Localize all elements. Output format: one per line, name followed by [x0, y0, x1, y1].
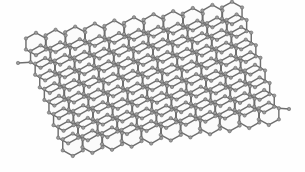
carbon-atom [81, 146, 84, 149]
carbon-atom [220, 51, 223, 54]
carbon-atom [101, 134, 104, 137]
carbon-atom [126, 90, 129, 93]
carbon-atom [159, 133, 162, 136]
carbon-atom [190, 60, 193, 63]
carbon-atom [258, 110, 261, 113]
carbon-atom [106, 135, 109, 138]
carbon-atom [142, 41, 145, 44]
carbon-atom [117, 76, 120, 79]
carbon-atom [171, 40, 174, 43]
carbon-atom [74, 25, 77, 28]
carbon-atom [120, 142, 123, 145]
carbon-atom [97, 88, 100, 91]
carbon-atom [248, 81, 251, 84]
carbon-atom [145, 129, 148, 132]
carbon-atom [131, 91, 134, 94]
carbon-atom [141, 86, 144, 89]
carbon-atom [180, 80, 183, 83]
carbon-atom [184, 78, 187, 81]
carbon-atom [34, 53, 37, 56]
carbon-atom [106, 90, 109, 93]
carbon-atom [125, 132, 128, 135]
carbon-atom [229, 76, 232, 79]
carbon-atom [110, 126, 113, 129]
carbon-atom [54, 50, 57, 53]
carbon-atom [210, 48, 213, 51]
carbon-atom [160, 136, 163, 139]
carbon-atom [176, 22, 179, 25]
carbon-atom [142, 29, 145, 32]
carbon-atom [184, 89, 187, 92]
carbon-atom [111, 103, 114, 106]
carbon-atom [229, 31, 232, 34]
carbon-atom [93, 44, 96, 47]
carbon-atom [135, 116, 138, 119]
carbon-atom [146, 42, 149, 45]
carbon-atom [69, 46, 72, 49]
carbon-atom [96, 133, 99, 136]
carbon-atom [100, 131, 103, 134]
carbon-atom [122, 32, 125, 35]
carbon-atom [181, 35, 184, 38]
carbon-atom [63, 53, 66, 56]
carbon-atom [152, 13, 155, 16]
carbon-atom [151, 54, 154, 57]
carbon-atom [218, 116, 221, 119]
carbon-atom [39, 44, 42, 47]
carbon-atom [150, 111, 153, 114]
carbon-atom [97, 110, 100, 113]
carbon-atom [33, 62, 36, 65]
carbon-atom [156, 70, 159, 73]
carbon-atom [91, 151, 94, 154]
carbon-atom [130, 123, 133, 126]
carbon-atom [112, 64, 115, 67]
carbon-atom [165, 84, 168, 87]
carbon-atom [196, 41, 199, 44]
carbon-atom [254, 55, 257, 58]
carbon-atom [245, 18, 248, 21]
carbon-atom [199, 107, 202, 110]
carbon-atom [175, 76, 178, 79]
carbon-atom [210, 79, 213, 82]
carbon-atom [82, 104, 85, 107]
carbon-atom [172, 32, 175, 35]
carbon-atom [140, 139, 143, 142]
carbon-atom [244, 38, 247, 41]
carbon-atom [64, 45, 67, 48]
carbon-atom [86, 116, 89, 119]
carbon-atom [52, 112, 55, 115]
carbon-atom [29, 60, 32, 63]
carbon-atom [69, 57, 72, 60]
carbon-atom [166, 28, 169, 31]
carbon-atom [103, 24, 106, 27]
carbon-atom [228, 107, 231, 110]
carbon-atom [88, 43, 91, 46]
carbon-atom [220, 73, 223, 76]
carbon-atom [215, 61, 218, 64]
carbon-atom [248, 84, 251, 87]
carbon-atom [180, 69, 183, 72]
carbon-atom [77, 125, 80, 128]
carbon-atom [123, 24, 126, 27]
carbon-atom [122, 78, 125, 81]
carbon-atom [131, 114, 134, 117]
carbon-atom [194, 117, 197, 120]
carbon-atom [38, 75, 41, 78]
carbon-atom [160, 125, 163, 128]
carbon-atom [68, 54, 71, 57]
carbon-atom [61, 149, 64, 152]
carbon-atom [186, 36, 189, 39]
carbon-atom [257, 107, 260, 110]
carbon-atom [228, 129, 231, 132]
carbon-atom [102, 81, 105, 84]
carbon-atom [165, 81, 168, 84]
carbon-atom [102, 92, 105, 95]
carbon-atom [170, 97, 173, 100]
carbon-atom [238, 79, 241, 82]
carbon-atom [81, 134, 84, 137]
carbon-atom [161, 83, 164, 86]
carbon-atom [219, 104, 222, 107]
carbon-atom [243, 80, 246, 83]
carbon-atom [162, 29, 165, 32]
carbon-atom [214, 58, 217, 61]
